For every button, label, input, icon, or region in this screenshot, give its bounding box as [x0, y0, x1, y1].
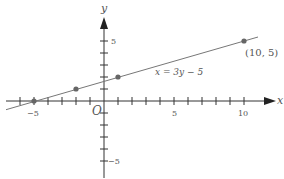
- point-neg5-0: [31, 98, 36, 103]
- y-tick-label-neg5: −5: [108, 157, 120, 166]
- equation-label: x = 3y − 5: [155, 67, 203, 77]
- y-tick-label-5: 5: [111, 37, 116, 46]
- y-axis-label: y: [100, 2, 108, 15]
- point-10-5: [241, 38, 246, 43]
- y-axis-arrow-icon: [100, 17, 108, 29]
- coordinate-plane: y x O −5 5 10 5 −5 x = 3y − 5 (10, 5): [0, 0, 284, 179]
- point-neg2-1: [73, 86, 78, 91]
- point-1-2: [115, 74, 120, 79]
- x-axis-label: x: [277, 94, 284, 107]
- origin-label: O: [92, 104, 102, 118]
- x-tick-label-5: 5: [172, 109, 177, 118]
- x-axis-arrow-icon: [264, 97, 276, 105]
- point-label-10-5: (10, 5): [245, 47, 278, 58]
- x-tick-label-neg5: −5: [27, 109, 39, 118]
- x-tick-label-10: 10: [238, 109, 248, 118]
